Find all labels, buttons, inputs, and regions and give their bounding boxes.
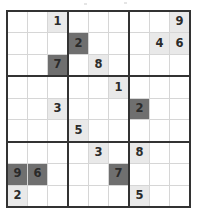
sudoku-cell-r1c8-empty-cell[interactable]	[149, 11, 169, 33]
sudoku-cell-r8c4-empty-cell[interactable]	[68, 163, 88, 185]
sudoku-cell-r7c3-empty-cell[interactable]	[48, 142, 68, 164]
sudoku-cell-r8c7-empty-cell[interactable]	[129, 163, 149, 185]
sudoku-cell-r6c4-light-shaded-cell[interactable]: 5	[68, 120, 88, 142]
sudoku-cell-r3c6-empty-cell[interactable]	[109, 55, 129, 77]
sudoku-cell-r2c5-empty-cell[interactable]	[88, 33, 108, 55]
sudoku-cell-r3c1-empty-cell[interactable]	[7, 55, 27, 77]
sudoku-cell-r1c6-empty-cell[interactable]	[109, 11, 129, 33]
sudoku-cell-r5c9-empty-cell[interactable]	[170, 98, 190, 120]
sudoku-cell-r9c9-empty-cell[interactable]	[170, 185, 190, 207]
sudoku-cell-r1c5-empty-cell[interactable]	[88, 11, 108, 33]
sudoku-cell-r9c4-empty-cell[interactable]	[68, 185, 88, 207]
sudoku-cell-r2c9-light-shaded-cell[interactable]: 6	[170, 33, 190, 55]
sudoku-cell-r6c8-empty-cell[interactable]	[149, 120, 169, 142]
sudoku-cell-r9c8-empty-cell[interactable]	[149, 185, 169, 207]
sudoku-cell-r8c9-empty-cell[interactable]	[170, 163, 190, 185]
sudoku-puzzle: 192467813253896725	[6, 10, 189, 206]
sudoku-cell-r3c2-empty-cell[interactable]	[27, 55, 47, 77]
sudoku-cell-r6c6-empty-cell[interactable]	[109, 120, 129, 142]
sudoku-cell-r8c8-empty-cell[interactable]	[149, 163, 169, 185]
sudoku-cell-r7c6-empty-cell[interactable]	[109, 142, 129, 164]
sudoku-cell-r8c6-dark-shaded-cell[interactable]: 7	[109, 163, 129, 185]
sudoku-cell-r4c3-empty-cell[interactable]	[48, 76, 68, 98]
sudoku-cell-r2c6-empty-cell[interactable]	[109, 33, 129, 55]
sudoku-cell-r3c7-empty-cell[interactable]	[129, 55, 149, 77]
sudoku-cell-r7c4-empty-cell[interactable]	[68, 142, 88, 164]
sudoku-grid: 192467813253896725	[6, 10, 191, 208]
sudoku-cell-r7c9-empty-cell[interactable]	[170, 142, 190, 164]
sudoku-cell-r4c4-empty-cell[interactable]	[68, 76, 88, 98]
sudoku-row: 32	[7, 98, 190, 120]
sudoku-cell-r5c7-dark-shaded-cell[interactable]: 2	[129, 98, 149, 120]
sudoku-cell-r8c5-empty-cell[interactable]	[88, 163, 108, 185]
sudoku-cell-r9c6-empty-cell[interactable]	[109, 185, 129, 207]
sudoku-cell-r4c1-empty-cell[interactable]	[7, 76, 27, 98]
sudoku-cell-r2c7-empty-cell[interactable]	[129, 33, 149, 55]
sudoku-cell-r5c2-empty-cell[interactable]	[27, 98, 47, 120]
sudoku-cell-r9c5-empty-cell[interactable]	[88, 185, 108, 207]
sudoku-cell-r3c3-dark-shaded-cell[interactable]: 7	[48, 55, 68, 77]
sudoku-cell-r7c8-empty-cell[interactable]	[149, 142, 169, 164]
sudoku-cell-r4c7-empty-cell[interactable]	[129, 76, 149, 98]
sudoku-cell-r9c3-empty-cell[interactable]	[48, 185, 68, 207]
sudoku-row: 25	[7, 185, 190, 207]
sudoku-cell-r6c2-empty-cell[interactable]	[27, 120, 47, 142]
sudoku-cell-r5c4-empty-cell[interactable]	[68, 98, 88, 120]
sudoku-cell-r5c1-empty-cell[interactable]	[7, 98, 27, 120]
sudoku-cell-r7c7-light-shaded-cell[interactable]: 8	[129, 142, 149, 164]
sudoku-row: 5	[7, 120, 190, 142]
sudoku-cell-r6c3-empty-cell[interactable]	[48, 120, 68, 142]
sudoku-row: 38	[7, 142, 190, 164]
sudoku-cell-r7c1-empty-cell[interactable]	[7, 142, 27, 164]
sudoku-cell-r1c4-empty-cell[interactable]	[68, 11, 88, 33]
sudoku-cell-r1c1-empty-cell[interactable]	[7, 11, 27, 33]
sudoku-cell-r4c6-light-shaded-cell[interactable]: 1	[109, 76, 129, 98]
sudoku-cell-r1c7-empty-cell[interactable]	[129, 11, 149, 33]
sudoku-cell-r4c9-empty-cell[interactable]	[170, 76, 190, 98]
sudoku-cell-r5c6-empty-cell[interactable]	[109, 98, 129, 120]
sudoku-cell-r8c2-dark-shaded-cell[interactable]: 6	[27, 163, 47, 185]
sudoku-cell-r3c9-empty-cell[interactable]	[170, 55, 190, 77]
sudoku-cell-r6c7-empty-cell[interactable]	[129, 120, 149, 142]
sudoku-cell-r2c4-dark-shaded-cell[interactable]: 2	[68, 33, 88, 55]
sudoku-row: 1	[7, 76, 190, 98]
sudoku-cell-r1c2-empty-cell[interactable]	[27, 11, 47, 33]
scan-artifact	[124, 2, 127, 4]
sudoku-cell-r6c5-empty-cell[interactable]	[88, 120, 108, 142]
sudoku-cell-r6c1-empty-cell[interactable]	[7, 120, 27, 142]
sudoku-cell-r5c3-light-shaded-cell[interactable]: 3	[48, 98, 68, 120]
scan-artifact	[84, 3, 87, 5]
sudoku-row: 246	[7, 33, 190, 55]
sudoku-cell-r3c8-empty-cell[interactable]	[149, 55, 169, 77]
sudoku-cell-r7c5-light-shaded-cell[interactable]: 3	[88, 142, 108, 164]
sudoku-cell-r1c3-light-shaded-cell[interactable]: 1	[48, 11, 68, 33]
sudoku-cell-r2c8-light-shaded-cell[interactable]: 4	[149, 33, 169, 55]
sudoku-cell-r3c5-light-shaded-cell[interactable]: 8	[88, 55, 108, 77]
sudoku-cell-r2c3-empty-cell[interactable]	[48, 33, 68, 55]
sudoku-row: 78	[7, 55, 190, 77]
sudoku-cell-r4c8-empty-cell[interactable]	[149, 76, 169, 98]
sudoku-cell-r3c4-empty-cell[interactable]	[68, 55, 88, 77]
sudoku-cell-r5c8-empty-cell[interactable]	[149, 98, 169, 120]
sudoku-cell-r9c7-light-shaded-cell[interactable]: 5	[129, 185, 149, 207]
sudoku-cell-r5c5-empty-cell[interactable]	[88, 98, 108, 120]
sudoku-cell-r9c2-empty-cell[interactable]	[27, 185, 47, 207]
sudoku-cell-r2c1-empty-cell[interactable]	[7, 33, 27, 55]
sudoku-cell-r2c2-empty-cell[interactable]	[27, 33, 47, 55]
sudoku-row: 19	[7, 11, 190, 33]
sudoku-cell-r4c2-empty-cell[interactable]	[27, 76, 47, 98]
sudoku-cell-r8c1-dark-shaded-cell[interactable]: 9	[7, 163, 27, 185]
sudoku-cell-r7c2-empty-cell[interactable]	[27, 142, 47, 164]
sudoku-cell-r8c3-empty-cell[interactable]	[48, 163, 68, 185]
sudoku-cell-r9c1-light-shaded-cell[interactable]: 2	[7, 185, 27, 207]
sudoku-row: 967	[7, 163, 190, 185]
sudoku-cell-r6c9-empty-cell[interactable]	[170, 120, 190, 142]
sudoku-cell-r1c9-light-shaded-cell[interactable]: 9	[170, 11, 190, 33]
sudoku-cell-r4c5-empty-cell[interactable]	[88, 76, 108, 98]
